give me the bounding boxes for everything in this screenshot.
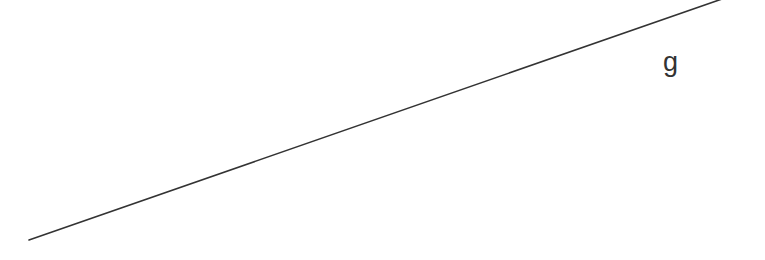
- diagram-canvas: g: [0, 0, 765, 260]
- line-g[interactable]: [29, 0, 722, 240]
- geometry-drawing: g: [0, 0, 765, 260]
- line-label-g: g: [663, 47, 678, 77]
